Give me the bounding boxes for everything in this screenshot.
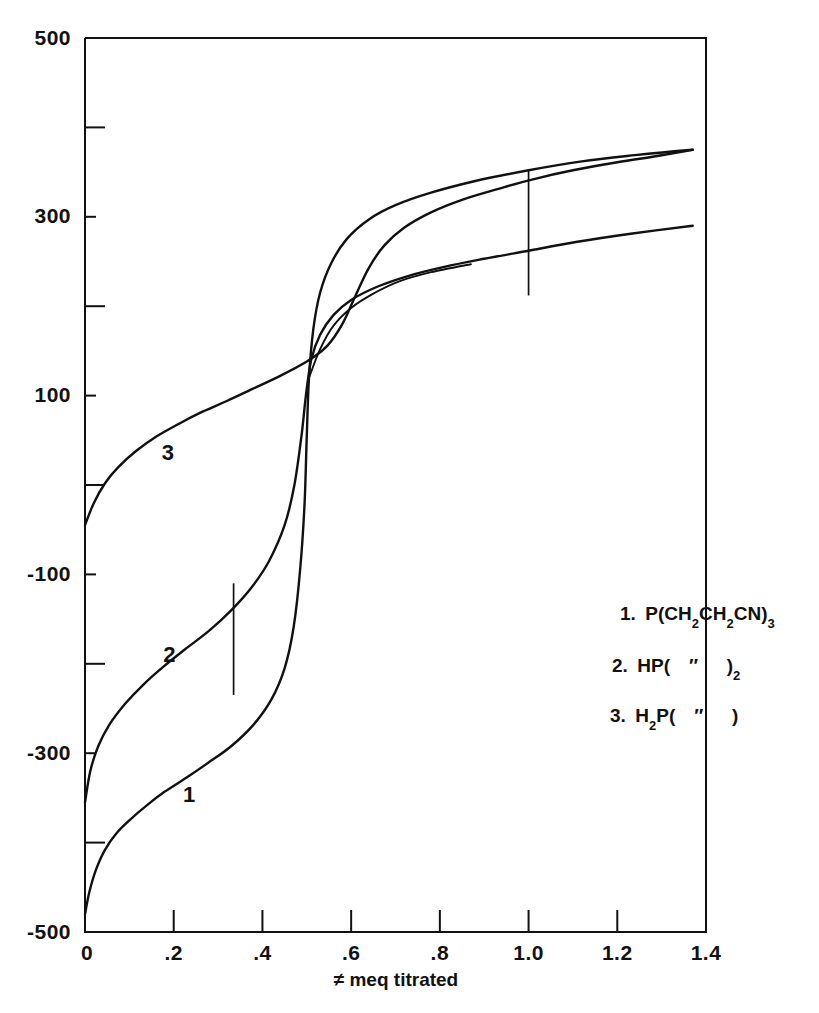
y-tick-label: 300	[34, 204, 71, 227]
titration-plot: 500300100-100-300-500 0.2.4.6.81.01.21.4…	[0, 0, 819, 1013]
legend-item-2: 2. HP( ″ )2	[612, 655, 740, 683]
curve-label-1: 1	[183, 782, 195, 807]
x-tick-label: .8	[431, 941, 450, 964]
y-axis-tick-labels: 500300100-100-300-500	[27, 26, 71, 943]
curve-label-2: 2	[163, 642, 175, 667]
curve-1	[85, 150, 693, 914]
x-tick-label: .6	[342, 941, 361, 964]
x-tick-label: .2	[164, 941, 183, 964]
y-tick-label: -300	[27, 741, 71, 764]
legend-item-3: 3. H2P( ″ )	[610, 705, 738, 733]
chart-canvas: 500300100-100-300-500 0.2.4.6.81.01.21.4…	[0, 0, 819, 1013]
plot-frame	[85, 38, 706, 932]
x-axis-title: ≠ meq titrated	[334, 969, 458, 990]
curve-3	[85, 150, 693, 525]
legend: 1. P(CH2CH2CN)32. HP( ″ )23. H2P( ″ )	[610, 603, 775, 733]
x-tick-label: 1.2	[602, 941, 633, 964]
curve-label-3: 3	[162, 440, 174, 465]
legend-item-1: 1. P(CH2CH2CN)3	[620, 603, 775, 631]
data-curves	[85, 150, 693, 914]
curve-labels: 123	[162, 440, 196, 807]
y-tick-label: -500	[27, 920, 71, 943]
y-tick-label: 100	[34, 383, 71, 406]
x-tick-label: 1.4	[691, 941, 722, 964]
y-tick-label: -100	[27, 562, 71, 585]
x-tick-label: 0	[81, 941, 93, 964]
y-tick-label: 500	[34, 26, 71, 49]
x-axis-tick-labels: 0.2.4.6.81.01.21.4	[81, 941, 721, 964]
x-tick-label: 1.0	[513, 941, 544, 964]
x-tick-label: .4	[253, 941, 272, 964]
x-axis-ticks	[174, 910, 618, 932]
curve-2	[85, 226, 693, 803]
